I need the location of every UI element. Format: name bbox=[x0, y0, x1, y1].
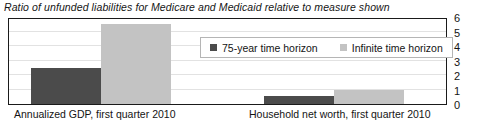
y-axis-tick-4: 4 bbox=[454, 42, 460, 53]
y-axis-tick-3: 3 bbox=[454, 56, 460, 67]
bar-gdp-75year bbox=[31, 68, 101, 104]
y-axis-tick-5: 5 bbox=[454, 27, 460, 38]
legend-label-infinite: Infinite time horizon bbox=[352, 42, 443, 54]
y-axis-tick-1: 1 bbox=[454, 85, 460, 96]
bar-networth-75year bbox=[264, 96, 334, 104]
chart-legend: 75-year time horizon Infinite time horiz… bbox=[200, 37, 453, 58]
bar-networth-infinite bbox=[334, 90, 404, 105]
legend-swatch-icon bbox=[210, 44, 217, 51]
bar-chart: Ratio of unfunded liabilities for Medica… bbox=[0, 0, 480, 126]
x-axis-labels: Annualized GDP, first quarter 2010 House… bbox=[0, 108, 480, 124]
legend-label-75-year: 75-year time horizon bbox=[222, 42, 318, 54]
x-axis-label-household-net-worth: Household net worth, first quarter 2010 bbox=[249, 108, 431, 120]
bar-gdp-infinite bbox=[101, 24, 171, 104]
bars-layer bbox=[9, 19, 446, 104]
y-axis-tick-2: 2 bbox=[454, 71, 460, 82]
legend-item-infinite: Infinite time horizon bbox=[340, 42, 443, 54]
plot-area bbox=[8, 18, 447, 105]
x-axis-label-gdp: Annualized GDP, first quarter 2010 bbox=[14, 108, 175, 120]
legend-item-75-year: 75-year time horizon bbox=[210, 42, 318, 54]
legend-swatch-icon bbox=[340, 44, 347, 51]
y-axis-tick-6: 6 bbox=[454, 13, 460, 24]
chart-title: Ratio of unfunded liabilities for Medica… bbox=[4, 1, 390, 13]
y-axis: 6543210 bbox=[450, 18, 478, 105]
